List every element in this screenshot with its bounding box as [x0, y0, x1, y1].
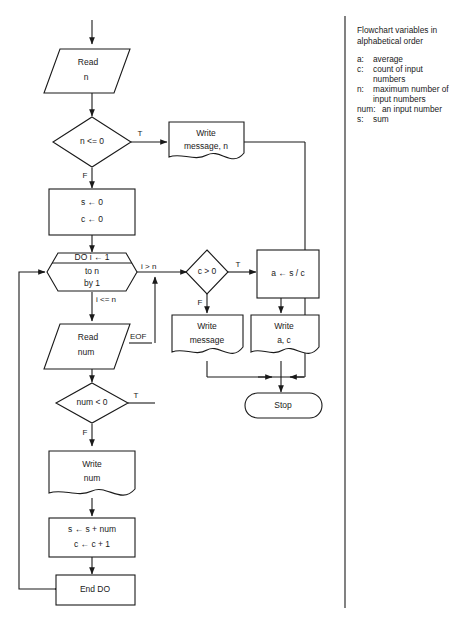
node-accumulate[interactable]: s ← s + num c ← c + 1: [49, 518, 135, 557]
node-write-num[interactable]: Write num: [49, 451, 135, 495]
node-end-do[interactable]: End DO: [56, 575, 135, 605]
node-read-n[interactable]: Read n: [44, 49, 130, 93]
edge-label-num-lt-0-false: F: [83, 428, 88, 437]
legend-desc-s-line1: sum: [373, 114, 389, 124]
legend-item: s: sum: [357, 114, 389, 124]
write-a-c-label-line1: Write: [274, 321, 294, 331]
node-write-message-n[interactable]: Write message, n: [169, 122, 244, 159]
test-num-lt-0-label: num < 0: [77, 397, 108, 407]
legend-desc-c-line2: numbers: [373, 74, 405, 84]
edge-label-do-enter: i <= n: [96, 295, 116, 304]
init-rectangle: [49, 189, 135, 235]
read-num-label-line1: Read: [78, 332, 99, 342]
write-message-label-line2: message: [190, 335, 225, 345]
write-num-label-line2: num: [84, 473, 101, 483]
init-label-line2: c ← 0: [81, 214, 103, 224]
legend-desc-num-line1: an input number: [382, 104, 442, 114]
write-num-label-line1: Write: [82, 459, 102, 469]
edge-label-n-le-0-false: F: [83, 171, 88, 180]
legend-title-line2: alphabetical order: [357, 36, 423, 46]
connectors: [19, 20, 305, 589]
node-do-loop[interactable]: DO i ← 1 to n by 1: [47, 252, 137, 291]
edge-label-do-exit: i > n: [141, 262, 156, 271]
read-num-label-line2: num: [78, 347, 95, 357]
edge-label-c-gt-0-true: T: [236, 260, 241, 269]
write-a-c-label-line2: a, c: [277, 335, 291, 345]
legend-item: num: an input number: [357, 104, 442, 114]
legend-desc-a-line1: average: [373, 54, 403, 64]
node-write-message[interactable]: Write message: [172, 315, 243, 353]
flowchart-canvas: Read n n <= 0 T F Write message, n s ← 0…: [0, 0, 460, 624]
legend-key-a: a:: [357, 54, 364, 64]
legend-desc-n-line1: maximum number of: [373, 84, 449, 94]
node-test-c-gt-0[interactable]: c > 0: [186, 250, 228, 294]
do-loop-header: DO i ← 1: [75, 252, 110, 262]
flowchart-page: Read n n <= 0 T F Write message, n s ← 0…: [0, 0, 460, 624]
legend-desc-c-line1: count of input: [373, 64, 424, 74]
legend-key-num: num:: [357, 104, 375, 114]
node-test-num-lt-0[interactable]: num < 0: [56, 383, 128, 423]
legend-item: n: maximum number of input numbers: [357, 84, 449, 104]
legend-title-line1: Flowchart variables in: [357, 25, 438, 35]
edge-label-n-le-0-true: T: [138, 129, 143, 138]
read-n-parallelogram: [44, 49, 130, 93]
edge-label-c-gt-0-false: F: [198, 298, 203, 307]
accumulate-label-line2: c ← c + 1: [74, 539, 110, 549]
legend: Flowchart variables in alphabetical orde…: [357, 25, 449, 124]
compute-average-label: a ← s / c: [271, 268, 305, 278]
test-c-gt-0-label: c > 0: [198, 266, 217, 276]
test-n-le-0-label: n <= 0: [80, 136, 104, 146]
node-init[interactable]: s ← 0 c ← 0: [49, 189, 135, 235]
legend-item: c: count of input numbers: [357, 64, 424, 84]
end-do-label: End DO: [80, 584, 111, 594]
legend-item: a: average: [357, 54, 403, 64]
do-loop-label-line2: by 1: [84, 278, 100, 288]
node-stop[interactable]: Stop: [245, 393, 322, 418]
edge-label-read-num-eof: EOF: [130, 332, 147, 341]
node-test-n-le-0[interactable]: n <= 0: [53, 117, 131, 167]
node-write-a-c[interactable]: Write a, c: [251, 315, 319, 353]
legend-key-c: c:: [357, 64, 363, 74]
write-message-label-line1: Write: [197, 321, 217, 331]
read-n-label-line2: n: [84, 72, 89, 82]
write-message-n-label-line2: message, n: [184, 141, 228, 151]
legend-desc-n-line2: input numbers: [373, 94, 426, 104]
write-message-n-label-line1: Write: [196, 128, 216, 138]
legend-key-n: n:: [357, 84, 364, 94]
legend-key-s: s:: [357, 114, 363, 124]
stop-label: Stop: [274, 400, 292, 410]
accumulate-label-line1: s ← s + num: [68, 524, 116, 534]
read-n-label-line1: Read: [78, 57, 99, 67]
node-read-num[interactable]: Read num: [44, 324, 130, 369]
node-compute-average[interactable]: a ← s / c: [257, 250, 319, 298]
edge-label-num-lt-0-true: T: [134, 391, 139, 400]
do-loop-label-line1: to n: [85, 266, 99, 276]
init-label-line1: s ← 0: [81, 197, 103, 207]
